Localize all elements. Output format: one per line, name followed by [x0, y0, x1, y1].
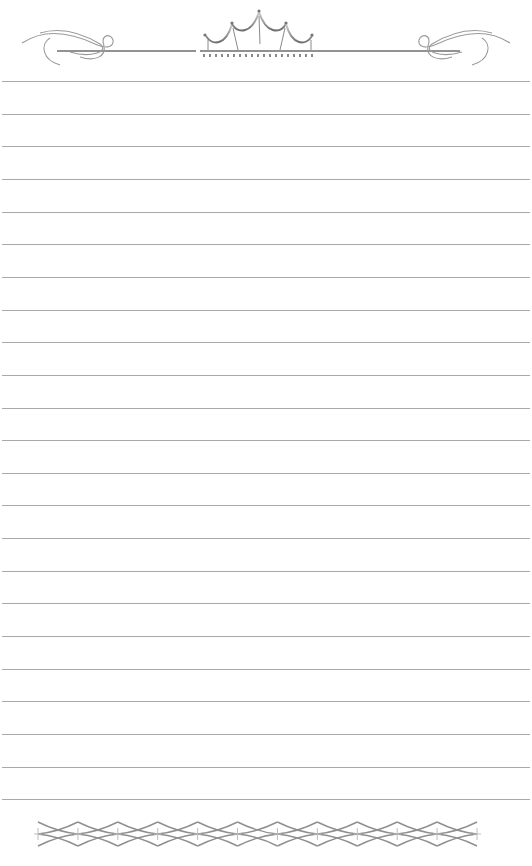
diamond-chain-footer-ornament: [0, 800, 532, 850]
ruled-line: [2, 408, 530, 409]
ruled-line: [2, 114, 530, 115]
ruled-line: [2, 636, 530, 637]
ruled-line: [2, 375, 530, 376]
ruled-line: [2, 571, 530, 572]
ruled-line: [2, 342, 530, 343]
ruled-line: [2, 179, 530, 180]
ruled-line: [2, 473, 530, 474]
ruled-line: [2, 310, 530, 311]
ruled-line: [2, 440, 530, 441]
ruled-line: [2, 212, 530, 213]
ruled-line: [2, 81, 530, 82]
ruled-line: [2, 767, 530, 768]
ruled-line: [2, 244, 530, 245]
right-scroll-flourish-icon: [419, 30, 510, 65]
stationery-page: [0, 0, 532, 866]
ruled-line: [2, 277, 530, 278]
ruled-line: [2, 669, 530, 670]
ruled-line: [2, 505, 530, 506]
left-scroll-flourish-icon: [22, 30, 113, 65]
ruled-line: [2, 146, 530, 147]
crown-fringe-icon: [203, 54, 313, 57]
ruled-line: [2, 603, 530, 604]
crown-flourish-header-ornament: [0, 0, 532, 75]
ruled-line: [2, 734, 530, 735]
ruled-line: [2, 538, 530, 539]
ruled-line: [2, 701, 530, 702]
